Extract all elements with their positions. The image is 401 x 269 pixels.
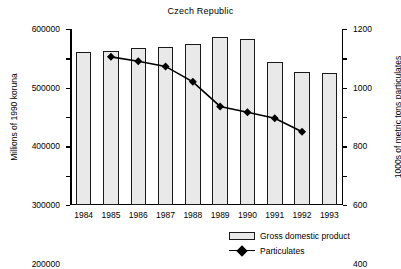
left-axis-tick-label: 400000	[32, 141, 60, 151]
x-axis-tick-label: 1993	[320, 210, 339, 220]
diamond-marker	[298, 128, 306, 136]
diamond-marker	[134, 57, 142, 65]
legend-item-particulates: Particulates	[229, 243, 350, 258]
right-axis-tick-label: 800	[353, 141, 367, 151]
diamond-marker-icon	[236, 245, 247, 256]
right-axis-tick-label: 1000	[353, 83, 372, 93]
diamond-marker	[271, 114, 279, 122]
line-series-particulates	[70, 29, 343, 205]
y-axis-label-right: 1000s of metric tons particulates	[393, 56, 401, 178]
x-axis-tick-label: 1985	[101, 210, 120, 220]
x-axis-tick-label: 1987	[156, 210, 175, 220]
left-axis-tick-label: 200000	[32, 259, 60, 269]
left-axis-tick-label: 500000	[32, 83, 60, 93]
right-axis-tick: 600	[343, 117, 347, 118]
x-axis-tick-label: 1992	[293, 210, 312, 220]
legend-label: Gross domestic product	[260, 231, 350, 241]
chart-legend: Gross domestic product Particulates	[229, 228, 350, 258]
right-axis-tick-label: 1200	[353, 24, 372, 34]
x-axis-tick-label: 1988	[183, 210, 202, 220]
right-axis-tick-label: 400	[353, 259, 367, 269]
right-axis-tick: 800	[343, 88, 347, 89]
right-axis-tick: 0	[343, 205, 347, 206]
x-axis-tick-label: 1986	[129, 210, 148, 220]
legend-item-gross-domestic-product: Gross domestic product	[229, 228, 350, 243]
right-axis-tick-label: 600	[353, 200, 367, 210]
right-axis-tick: 1000	[343, 58, 347, 59]
y-axis-label-left: Millions of 1990 koruna	[9, 73, 19, 160]
plot-area: 0100000200000300000400000500000600000 02…	[70, 29, 343, 205]
left-axis-tick: 0	[66, 205, 70, 206]
diamond-marker	[107, 53, 115, 61]
left-axis-tick-label: 600000	[32, 24, 60, 34]
legend-label: Particulates	[260, 246, 304, 256]
diamond-marker	[162, 62, 170, 70]
bar-swatch-icon	[229, 232, 255, 240]
x-axis-tick-label: 1989	[211, 210, 230, 220]
x-axis-tick-label: 1990	[238, 210, 257, 220]
right-axis-tick: 400	[343, 146, 347, 147]
chart-title: Czech Republic	[0, 6, 401, 16]
x-axis-tick-label: 1984	[74, 210, 93, 220]
x-axis-tick-label: 1991	[265, 210, 284, 220]
chart-container: Czech Republic 0100000200000300000400000…	[0, 0, 401, 269]
right-axis-tick: 200	[343, 176, 347, 177]
diamond-marker	[243, 108, 251, 116]
left-axis-tick-label: 300000	[32, 200, 60, 210]
line-diamond-icon	[229, 247, 255, 255]
right-axis-tick: 1200	[343, 29, 347, 30]
